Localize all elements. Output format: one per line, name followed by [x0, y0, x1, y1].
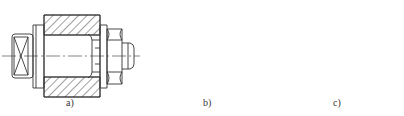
nut-a [107, 29, 122, 84]
panel-a-drawing [2, 15, 140, 97]
washer-a [100, 25, 107, 88]
panel-a-label: a) [66, 97, 74, 108]
bushing-top-a [44, 15, 100, 35]
bushing-bottom-a [44, 77, 100, 97]
panel-b-label: b) [203, 97, 211, 108]
collar-a [33, 25, 44, 88]
panel-c-label: c) [333, 97, 341, 108]
technical-drawing [0, 0, 404, 116]
